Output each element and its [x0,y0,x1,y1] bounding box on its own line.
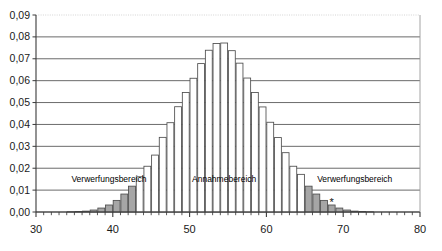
y-tick-label: 0,02 [10,162,31,174]
binomial-distribution-chart: 0,000,010,020,030,040,050,060,070,080,09… [0,0,442,251]
histogram-bar [213,43,220,212]
y-tick-label: 0,00 [10,206,31,218]
x-tick-label: 80 [414,223,426,235]
histogram-bar [259,107,266,212]
histogram-bar [251,92,258,212]
y-tick-label: 0,06 [10,74,31,86]
y-tick-label: 0,08 [10,30,31,42]
y-tick-label: 0,05 [10,96,31,108]
histogram-bar [129,186,136,212]
histogram-bar [106,205,113,212]
histogram-bar [267,122,274,212]
y-tick-label: 0,01 [10,184,31,196]
histogram-bar [336,208,343,212]
histogram-bar [305,186,312,212]
acceptance-region-label: Annahmebereich [192,174,256,184]
x-tick-label: 70 [337,223,349,235]
y-tick-label: 0,09 [10,9,31,21]
histogram-bar [321,200,328,212]
histogram-bar [228,51,235,212]
left-rejection-region-label: Verwerfungsbereich [71,174,146,184]
x-tick-label: 40 [107,223,119,235]
x-tick-label: 30 [30,223,42,235]
histogram-bar [313,194,320,212]
histogram-bar [274,138,281,212]
histogram-bar [182,92,189,212]
histogram-bar [121,194,128,212]
histogram-bar [159,137,166,212]
histogram-bar [190,78,197,212]
y-tick-label: 0,03 [10,140,31,152]
histogram-bar [113,200,120,212]
histogram-bar [152,155,159,212]
histogram-bar [282,153,289,212]
x-tick-label: 60 [260,223,272,235]
y-tick-label: 0,07 [10,52,31,64]
histogram-bar [244,78,251,212]
histogram-bar [236,63,243,212]
histogram-bar [205,50,212,212]
observed-value-marker: * [330,196,335,208]
histogram-bar [198,64,205,212]
histogram-bar [290,166,297,212]
chart-canvas: 0,000,010,020,030,040,050,060,070,080,09… [0,0,442,251]
histogram-bar [298,174,305,212]
y-tick-label: 0,04 [10,118,31,130]
histogram-bar [167,123,174,212]
histogram-bar [98,208,105,212]
histogram-bar [175,107,182,212]
histogram-bar [221,43,228,212]
right-rejection-region-label: Verwerfungsbereich [317,174,392,184]
x-tick-label: 50 [183,223,195,235]
